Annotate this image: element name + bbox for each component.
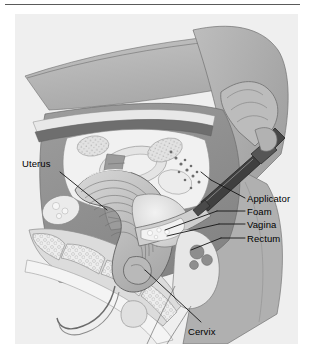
label-foam: Foam <box>247 206 272 217</box>
label-vagina: Vagina <box>247 219 276 230</box>
figure-root: Uterus Applicator Foam Vagina Rectum Cer… <box>0 0 310 355</box>
label-cervix: Cervix <box>188 326 216 337</box>
cervix <box>123 256 151 284</box>
top-divider-rule <box>5 4 300 5</box>
label-rectum: Rectum <box>247 233 280 244</box>
illustration-panel: Uterus Applicator Foam Vagina Rectum Cer… <box>15 14 298 344</box>
pubic-symphysis <box>121 301 147 328</box>
label-applicator: Applicator <box>247 193 290 204</box>
anatomy-illustration <box>15 14 298 344</box>
label-uterus: Uterus <box>22 158 51 169</box>
